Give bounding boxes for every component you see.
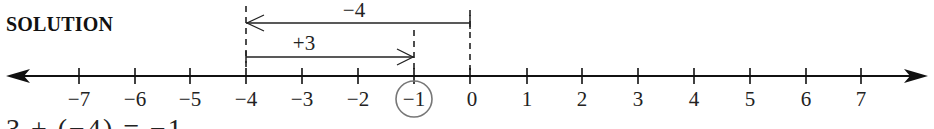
tick-label: 5 — [745, 87, 756, 111]
tick-label: 7 — [856, 87, 867, 111]
cut-off-equation: 3 + (−4) = −1 — [6, 113, 184, 129]
tick-label: 2 — [577, 87, 588, 111]
tick-label: −5 — [179, 87, 201, 111]
plus-3-arrow-label: +3 — [293, 31, 315, 55]
tick-label: 0 — [467, 87, 478, 111]
tick-label: −3 — [291, 87, 313, 111]
tick-label: 6 — [801, 87, 812, 111]
tick-label: 4 — [689, 87, 700, 111]
tick-labels: −7 −6 −5 −4 −3 −2 −1 0 1 2 3 4 5 6 7 — [68, 87, 866, 111]
tick-label: −7 — [68, 87, 90, 111]
number-line-diagram: −4 +3 −7 −6 −5 −4 −3 −2 −1 0 1 2 3 4 5 6 — [0, 0, 934, 129]
tick-label: −2 — [347, 87, 369, 111]
tick-label: −6 — [124, 87, 146, 111]
tick-label-circled: −1 — [403, 87, 425, 111]
minus-4-arrow-label: −4 — [343, 0, 366, 22]
tick-label: 3 — [633, 87, 644, 111]
tick-label: −4 — [235, 87, 258, 111]
tick-label: 1 — [522, 87, 533, 111]
